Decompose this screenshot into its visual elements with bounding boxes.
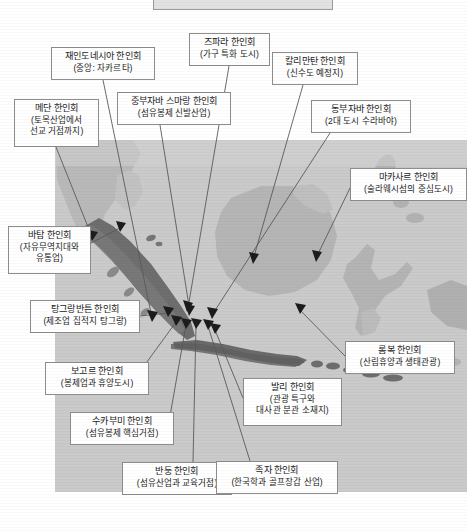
- label-medan-sub2: 선교 거점까지): [20, 126, 93, 137]
- label-jepara[interactable]: 즈파라 한인회 (가구 특화 도시): [189, 33, 270, 66]
- top-cropped-box-fragment: [153, 0, 333, 10]
- label-makassar[interactable]: 마카사르 한인회 (술라웨시섬의 중심도시): [350, 168, 467, 201]
- label-kalimantan-title: 칼리만탄 한인회: [278, 56, 352, 68]
- label-indonesia-central-sub: (중앙: 자카르타): [57, 63, 149, 74]
- label-batam-sub: (자유무역지대와: [14, 242, 85, 253]
- label-medan[interactable]: 메단 한인회 (토목산업에서 선교 거점까지): [14, 99, 99, 147]
- label-jepara-title: 즈파라 한인회: [195, 37, 264, 49]
- label-lombok-title: 롬복 한인회: [351, 345, 449, 357]
- label-jepara-sub: (가구 특화 도시): [195, 49, 264, 60]
- label-lombok[interactable]: 롬복 한인회 (산림휴양과 생태관광): [345, 341, 455, 374]
- label-bali[interactable]: 발리 한인회 (관광 특구와 대사관 분관 소재지): [243, 378, 342, 426]
- label-tangerang-banten-sub: (제조업 집적지 탕그랑): [36, 316, 134, 327]
- label-indonesia-central-title: 재인도네시아 한인회: [57, 51, 149, 63]
- label-tangerang-banten-title: 탕그랑반튼 한인회: [36, 304, 134, 316]
- label-bali-sub: (관광 특구와: [249, 394, 336, 405]
- label-east-java-title: 동부자바 한인회: [317, 104, 405, 116]
- label-semarang-sub: (섬유봉제 신발산업): [123, 108, 225, 119]
- label-bali-title: 발리 한인회: [249, 382, 336, 394]
- label-east-java[interactable]: 동부자바 한인회 (2대 도시 수라바야): [311, 100, 411, 133]
- label-jogja-sub: (한국학과 골프장갑 산업): [222, 477, 332, 488]
- label-sukabumi-title: 수카부미 한인회: [76, 416, 168, 428]
- label-kalimantan-sub: (신수도 예정지): [278, 68, 352, 79]
- label-batam[interactable]: 바탐 한인회 (자유무역지대와 유통업): [8, 226, 91, 274]
- label-bogor-title: 보고르 한인회: [51, 366, 143, 378]
- label-lombok-sub: (산림휴양과 생태관광): [351, 357, 449, 368]
- label-bandung-sub: (섬유산업과 교육거점): [128, 478, 226, 489]
- label-semarang[interactable]: 중부자바 스마랑 한인회 (섬유봉제 신발산업): [117, 92, 231, 125]
- label-medan-title: 메단 한인회: [20, 103, 93, 115]
- label-jogja[interactable]: 족자 한인회 (한국학과 골프장갑 산업): [216, 461, 338, 494]
- label-batam-title: 바탐 한인회: [14, 230, 85, 242]
- label-makassar-sub: (술라웨시섬의 중심도시): [356, 184, 461, 195]
- label-bogor[interactable]: 보고르 한인회 (봉제업과 휴양도시): [45, 362, 149, 395]
- label-sukabumi[interactable]: 수카부미 한인회 (섬유봉제 핵심거점): [70, 412, 174, 445]
- label-east-java-sub: (2대 도시 수라바야): [317, 116, 405, 127]
- label-kalimantan[interactable]: 칼리만탄 한인회 (신수도 예정지): [272, 52, 358, 85]
- label-sukabumi-sub: (섬유봉제 핵심거점): [76, 428, 168, 439]
- label-medan-sub: (토목산업에서: [20, 115, 93, 126]
- label-indonesia-central[interactable]: 재인도네시아 한인회 (중앙: 자카르타): [51, 47, 155, 80]
- label-batam-sub2: 유통업): [14, 253, 85, 264]
- figure-page: 메단 한인회 (토목산업에서 선교 거점까지) 재인도네시아 한인회 (중앙: …: [0, 0, 467, 531]
- label-bali-sub2: 대사관 분관 소재지): [249, 405, 336, 416]
- label-bandung-title: 반둥 한인회: [128, 466, 226, 478]
- label-jogja-title: 족자 한인회: [222, 465, 332, 477]
- label-semarang-title: 중부자바 스마랑 한인회: [123, 96, 225, 108]
- label-tangerang-banten[interactable]: 탕그랑반튼 한인회 (제조업 집적지 탕그랑): [30, 300, 140, 333]
- label-bogor-sub: (봉제업과 휴양도시): [51, 378, 143, 389]
- label-makassar-title: 마카사르 한인회: [356, 172, 461, 184]
